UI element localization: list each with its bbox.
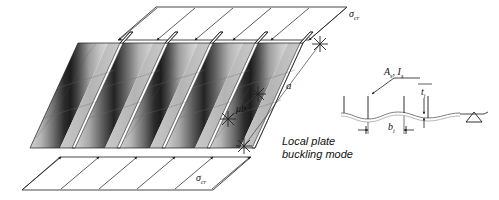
label-section-properties: As, Is bbox=[384, 66, 403, 79]
local-plate-buckling-figure bbox=[0, 0, 499, 200]
label-dimension-a: a bbox=[286, 79, 292, 91]
label-thickness-ti: ti bbox=[421, 86, 426, 99]
figure-caption: Local plate buckling mode bbox=[282, 135, 353, 161]
label-dimension-mub: μb bbox=[236, 103, 246, 114]
caption-line-1: Local plate bbox=[282, 135, 353, 148]
caption-line-2: buckling mode bbox=[282, 148, 353, 161]
label-width-bi: bi bbox=[388, 121, 395, 134]
label-sigma-cr-bottom: σcr bbox=[196, 172, 206, 185]
label-sigma-cr-top: σcr bbox=[349, 8, 359, 21]
